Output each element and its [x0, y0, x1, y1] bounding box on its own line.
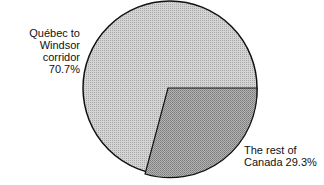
label-corridor: Québec to Windsor corridor 70.7%	[0, 27, 80, 75]
label-corridor-pct: 70.7%	[0, 63, 80, 75]
label-rest: The rest of Canada 29.3%	[244, 144, 324, 168]
label-rest-line2: Canada 29.3%	[244, 156, 324, 168]
label-corridor-line1: Québec to	[0, 27, 80, 39]
label-corridor-line2: Windsor corridor	[0, 39, 80, 63]
label-rest-line1: The rest of	[244, 144, 324, 156]
